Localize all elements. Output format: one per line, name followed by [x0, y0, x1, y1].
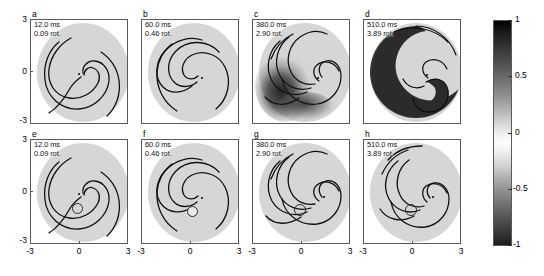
panel-a: 12.0 ms 0.09 rot. — [30, 19, 128, 124]
colorbar-label-0: 0 — [515, 128, 520, 137]
panel-rotations-g: 2.90 rot. — [256, 150, 286, 159]
y-tickmark — [30, 123, 33, 124]
colorbar-tickmark — [508, 20, 512, 21]
panel-annotation-c: 380.0 ms 2.90 rot. — [256, 21, 286, 38]
panel-letter-e: e — [32, 130, 37, 139]
core-marker-dot — [323, 196, 325, 198]
x-tick-mid-f: 0 — [180, 247, 200, 256]
panel-letter-b: b — [143, 10, 148, 19]
x-tickmark — [30, 241, 31, 244]
panel-rotations-c: 2.90 rot. — [256, 30, 286, 39]
y-tick-mid-row1: 0 — [12, 187, 27, 196]
panel-annotation-f: 60.0 ms 0.46 rot. — [145, 141, 172, 158]
panel-b: 60.0 ms 0.46 rot. — [141, 19, 239, 124]
obstacle-ring — [405, 204, 417, 216]
core-marker-dot — [426, 74, 428, 76]
panel-annotation-b: 60.0 ms 0.46 rot. — [145, 21, 172, 38]
x-tick-min-h: -3 — [353, 247, 373, 256]
panel-annotation-d: 510.0 ms 3.89 rot. — [367, 21, 397, 38]
panel-letter-f: f — [143, 130, 145, 139]
panel-rotations-d: 3.89 rot. — [367, 30, 397, 39]
x-tickmark — [252, 241, 253, 244]
x-tick-min-e: -3 — [20, 247, 40, 256]
panel-letter-g: g — [254, 130, 259, 139]
colorbar-label-n0p5: -0.5 — [513, 184, 528, 193]
y-tick-top-row1: 3 — [12, 135, 27, 144]
y-tickmark — [30, 191, 33, 192]
y-tick-top-row0: 3 — [12, 15, 27, 24]
core-marker-dot — [201, 197, 203, 199]
panel-letter-c: c — [254, 10, 258, 19]
y-tickmark — [30, 71, 33, 72]
panel-annotation-h: 510.0 ms 3.89 rot. — [367, 141, 397, 158]
colorbar-label-0p5: 0.5 — [515, 71, 527, 80]
panel-letter-h: h — [365, 130, 370, 139]
x-tickmark — [460, 241, 461, 244]
colorbar-tickmark — [508, 189, 512, 190]
x-tickmark — [127, 241, 128, 244]
x-tickmark — [412, 241, 413, 244]
obstacle-ring — [294, 204, 306, 216]
y-tick-mid-row0: 0 — [12, 67, 27, 76]
panel-g: 380.0 ms 2.90 rot. — [252, 139, 350, 244]
x-tickmark — [190, 241, 191, 244]
colorbar-label-1: 1 — [515, 15, 520, 24]
panel-rotations-b: 0.46 rot. — [145, 30, 172, 39]
panel-h: 510.0 ms 3.89 rot. — [363, 139, 461, 244]
y-tick-bot-row0: -3 — [8, 116, 27, 125]
core-marker-dot — [201, 77, 203, 79]
x-tickmark — [238, 241, 239, 244]
colorbar-tickmark — [508, 133, 512, 134]
panel-e: 12.0 ms 0.09 rot. — [30, 139, 128, 244]
y-tickmark — [30, 19, 33, 20]
x-tickmark — [79, 241, 80, 244]
core-marker-dot — [78, 193, 80, 195]
panel-annotation-a: 12.0 ms 0.09 rot. — [34, 21, 61, 38]
core-marker-dot — [78, 73, 80, 75]
x-tickmark — [141, 241, 142, 244]
panel-letter-a: a — [32, 10, 37, 19]
panel-rotations-a: 0.09 rot. — [34, 30, 61, 39]
x-tickmark — [363, 241, 364, 244]
colorbar-label-n1: -1 — [513, 240, 521, 249]
figure-canvas: a 12.0 ms 0.09 rot. b — [0, 0, 544, 276]
panel-rotations-f: 0.46 rot. — [145, 150, 172, 159]
x-tick-min-g: -3 — [242, 247, 262, 256]
panel-letter-d: d — [365, 10, 370, 19]
x-tick-max-h: 3 — [451, 247, 471, 256]
colorbar-tickmark — [508, 76, 512, 77]
panel-rotations-h: 3.89 rot. — [367, 150, 397, 159]
y-tick-bot-row1: -3 — [8, 236, 27, 245]
core-marker-dot — [317, 77, 319, 79]
y-tickmark — [30, 139, 33, 140]
obstacle-ring — [187, 206, 198, 217]
panel-c: 380.0 ms 2.90 rot. — [252, 19, 350, 124]
x-tick-mid-e: 0 — [69, 247, 89, 256]
panel-annotation-g: 380.0 ms 2.90 rot. — [256, 141, 286, 158]
panel-f: 60.0 ms 0.46 rot. — [141, 139, 239, 244]
x-tick-mid-h: 0 — [402, 247, 422, 256]
panel-rotations-e: 0.09 rot. — [34, 150, 61, 159]
x-tickmark — [301, 241, 302, 244]
x-tickmark — [349, 241, 350, 244]
panel-annotation-e: 12.0 ms 0.09 rot. — [34, 141, 61, 158]
obstacle-ring — [72, 203, 83, 214]
x-tick-mid-g: 0 — [291, 247, 311, 256]
core-marker-dot — [432, 196, 434, 198]
panel-d: 510.0 ms 3.89 rot. — [363, 19, 461, 124]
colorbar-tickmark — [508, 245, 512, 246]
x-tick-min-f: -3 — [131, 247, 151, 256]
